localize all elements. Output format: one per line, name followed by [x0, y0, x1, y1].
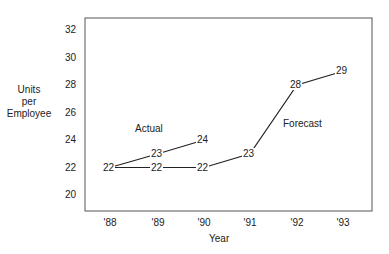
data-point-label: 29 — [335, 65, 348, 76]
x-tick-label: '88 — [95, 217, 125, 228]
x-tick-label: '91 — [235, 217, 265, 228]
data-point-label: 22 — [102, 162, 115, 173]
data-point-label: 22 — [150, 162, 163, 173]
x-tick-label: '92 — [282, 217, 312, 228]
data-point-label: 24 — [196, 134, 209, 145]
annotation-forecast: Forecast — [283, 118, 322, 129]
y-tick-label: 20 — [52, 189, 76, 200]
y-axis-label-line: Employee — [0, 108, 58, 119]
y-axis-label-line: Units — [0, 84, 58, 95]
data-point-label: 23 — [242, 148, 255, 159]
x-tick-label: '90 — [189, 217, 219, 228]
y-tick-label: 26 — [52, 107, 76, 118]
y-tick-label: 24 — [52, 134, 76, 145]
chart-canvas — [0, 0, 389, 254]
x-tick-label: '93 — [328, 217, 358, 228]
x-tick-label: '89 — [143, 217, 173, 228]
data-point-label: 28 — [289, 79, 302, 90]
y-tick-label: 22 — [52, 162, 76, 173]
annotation-actual: Actual — [135, 123, 163, 134]
y-tick-label: 32 — [52, 24, 76, 35]
y-tick-label: 30 — [52, 52, 76, 63]
data-point-label: 22 — [196, 162, 209, 173]
y-axis-label-line: per — [0, 96, 58, 107]
data-point-label: 23 — [150, 148, 163, 159]
plot-frame — [85, 18, 372, 211]
x-axis-label: Year — [209, 233, 229, 244]
y-tick-label: 28 — [52, 79, 76, 90]
